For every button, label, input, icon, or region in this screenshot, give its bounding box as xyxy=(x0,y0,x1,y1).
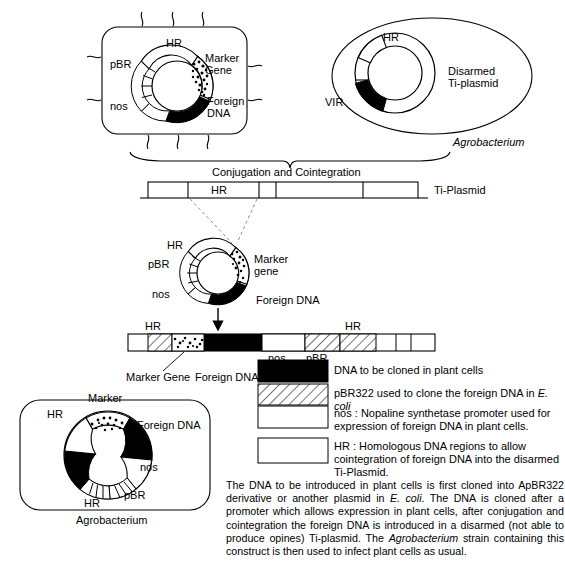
label-hr-middle: HR xyxy=(167,239,183,251)
label-hr-construct-left: HR xyxy=(145,320,161,332)
label-marker-gene-middle-1: Marker xyxy=(254,253,288,265)
label-nos-bottom: nos xyxy=(140,461,158,473)
label-nos-topleft: nos xyxy=(110,100,128,112)
label-marker-gene-construct: Marker Gene xyxy=(126,371,190,383)
caption-italic-agro: Agrobacterium xyxy=(389,532,459,544)
label-hr-topleft: HR xyxy=(166,37,182,49)
middle-plasmid-ring xyxy=(180,238,249,305)
label-pbr-topleft: pBR xyxy=(110,58,131,70)
legend-text-nos: nos : Nopaline synthetase promoter used … xyxy=(334,407,565,433)
label-vir: VIR xyxy=(325,96,343,108)
label-disarmed-2: Ti-plasmid xyxy=(448,77,498,89)
label-foreign-dna-bottom: Foreign DNA xyxy=(137,419,201,431)
label-nos-construct: nos xyxy=(268,352,286,364)
label-disarmed-1: Disarmed xyxy=(448,65,495,77)
label-hr-tiplasmid: HR xyxy=(383,31,399,43)
caption-paragraph: The DNA to be introduced in plant cells … xyxy=(226,479,564,558)
legend-swatches xyxy=(258,360,328,463)
ti-plasmid-ring xyxy=(355,33,435,113)
dashed-guides xyxy=(190,199,257,243)
label-marker-bottom: Marker xyxy=(88,392,122,404)
legend-text-black: DNA to be cloned in plant cells xyxy=(334,364,565,377)
legend-pbr-text-before: pBR322 used to clone the foreign DNA in xyxy=(334,387,538,399)
label-foreign-dna-construct: Foreign DNA xyxy=(195,371,259,383)
label-nos-middle: nos xyxy=(152,288,170,300)
legend-text-hr: HR : Homologous DNA regions to allow coi… xyxy=(334,440,565,479)
label-pbr-construct: pBR xyxy=(306,352,327,364)
caption-italic-ecoli: E. coli xyxy=(390,492,422,504)
label-marker-gene-middle-2: gene xyxy=(254,265,278,277)
label-agrobacterium-bottom: Agrobacterium xyxy=(76,514,148,526)
label-marker-gene-topleft-2: Gene xyxy=(205,64,232,76)
label-pbr-middle: pBR xyxy=(148,258,169,270)
legend-swatch-hatch xyxy=(258,384,328,405)
label-marker-gene-topleft-1: Marker xyxy=(205,52,239,64)
bar-foreign-dna xyxy=(204,334,262,351)
label-hr-construct-right: HR xyxy=(345,320,361,332)
label-foreign-dna-middle: Foreign DNA xyxy=(256,294,320,306)
diagram-canvas: pBR nos HR Marker Gene Foreign DNA HR VI… xyxy=(0,0,565,571)
legend-swatch-hr xyxy=(258,438,328,463)
legend-swatch-nos xyxy=(258,406,328,428)
label-hr-bar: HR xyxy=(211,184,227,196)
label-conjugation-caption: Conjugation and Cointegration xyxy=(212,166,361,178)
label-ti-plasmid: Ti-Plasmid xyxy=(434,184,486,196)
label-hr-bottom-upper: HR xyxy=(47,408,63,420)
label-hr-bottom-lower: HR xyxy=(84,497,100,509)
label-pbr-bottom: pBR xyxy=(124,489,145,501)
label-foreign-dna-topleft-2: DNA xyxy=(207,107,230,119)
ti-plasmid-linear-bar xyxy=(140,182,428,198)
label-agrobacterium-top: Agrobacterium xyxy=(453,136,525,148)
label-foreign-dna-topleft-1: Foreign xyxy=(207,95,244,107)
